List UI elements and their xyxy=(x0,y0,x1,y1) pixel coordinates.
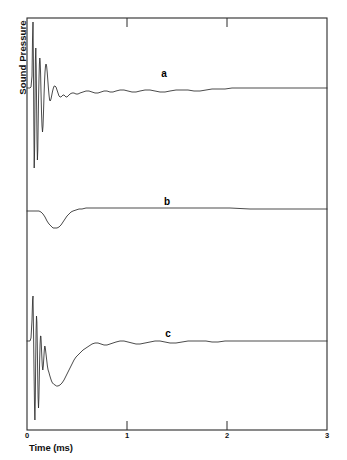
plot-frame xyxy=(27,18,327,430)
x-tick-label: 2 xyxy=(225,431,229,440)
y-axis-label: Sound Pressure xyxy=(17,3,28,113)
trace-label-c: c xyxy=(165,328,171,339)
waveform-trace-b xyxy=(27,208,327,228)
trace-label-b: b xyxy=(164,196,170,207)
axis-ticks xyxy=(127,18,227,430)
plot-canvas xyxy=(0,0,347,460)
trace-label-a: a xyxy=(161,68,167,79)
axes-frame xyxy=(27,18,327,430)
waveform-trace-a xyxy=(27,22,327,168)
x-tick-label: 1 xyxy=(125,431,129,440)
waveform-trace-c xyxy=(27,296,327,420)
sound-pressure-waveform-figure: Sound Pressure 0123 abc Time (ms) xyxy=(0,0,347,460)
x-tick-label: 3 xyxy=(325,431,329,440)
x-axis-label: Time (ms) xyxy=(29,442,73,453)
waveform-traces xyxy=(27,22,327,420)
x-tick-label: 0 xyxy=(25,431,29,440)
